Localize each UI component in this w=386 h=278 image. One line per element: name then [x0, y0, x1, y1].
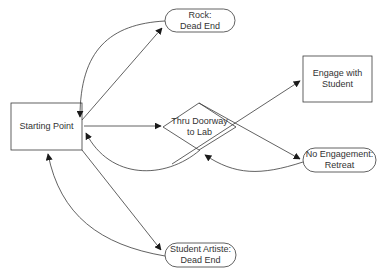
label-rock-dead-end: Rock: Dead End	[165, 9, 235, 32]
edge-retreat-to-doorway	[205, 155, 303, 171]
label-engage-with-student: Engage with Student	[303, 56, 372, 102]
label-thru-doorway: Thru Doorway to Lab	[163, 113, 236, 141]
label-no-engagement: No Engagement: Retreat	[303, 148, 376, 172]
label-starting-point: Starting Point	[11, 103, 82, 150]
edge-start-to-artiste	[82, 150, 161, 250]
label-student-artiste: Student Artiste: Dead End	[165, 243, 236, 267]
edge-rock-to-start	[80, 21, 165, 117]
edge-artiste-to-start	[48, 154, 165, 256]
edge-start-to-rock	[82, 28, 162, 120]
